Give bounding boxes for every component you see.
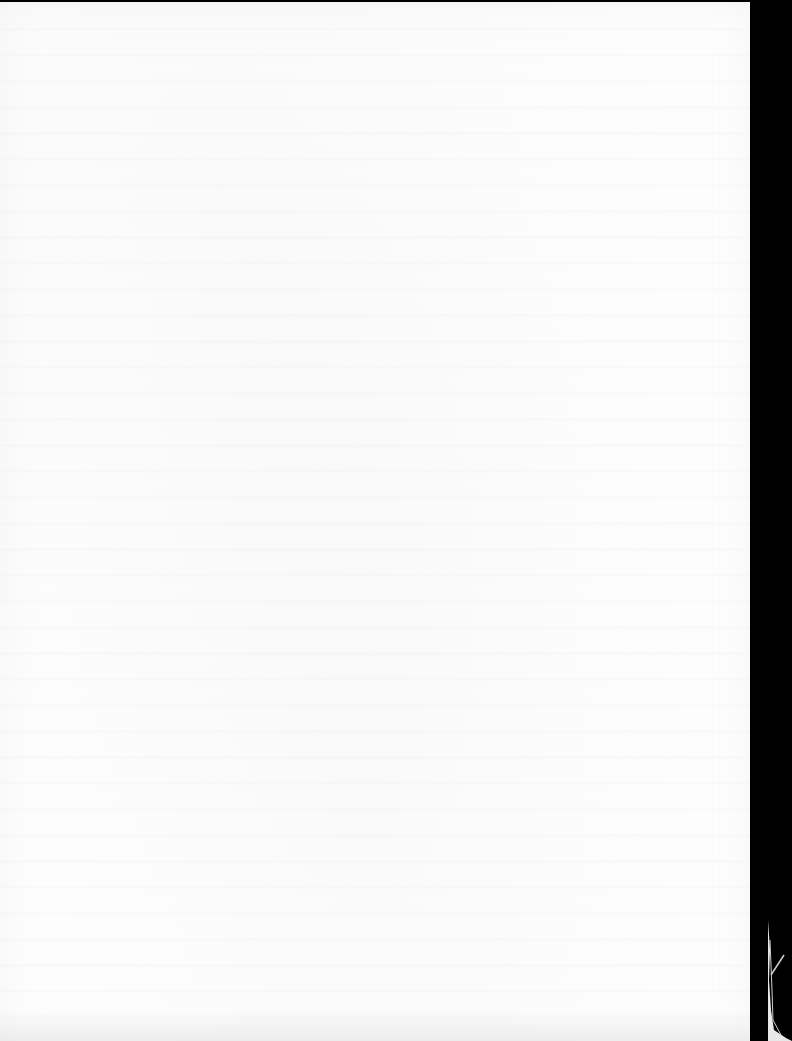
blank-page bbox=[0, 2, 750, 1041]
page-bottom-edge bbox=[0, 1011, 750, 1041]
scanned-document bbox=[0, 0, 792, 1041]
bleed-through-texture bbox=[0, 2, 750, 1041]
frayed-paper-edge-icon bbox=[766, 920, 792, 1041]
